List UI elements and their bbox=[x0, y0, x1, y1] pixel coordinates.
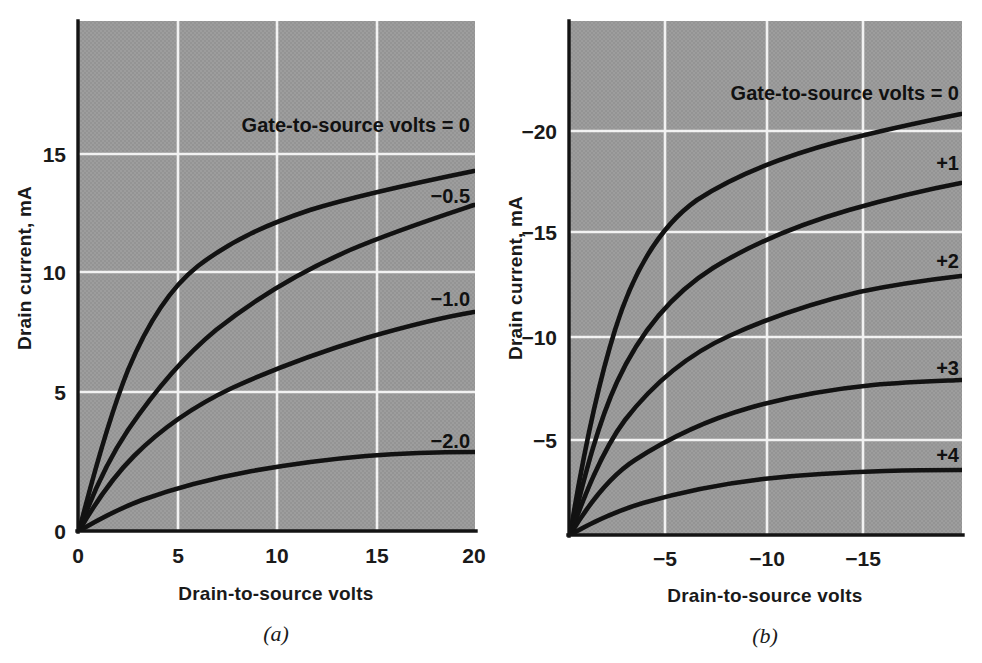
curve-label-a-vgs-0: Gate-to-source volts = 0 bbox=[242, 114, 470, 136]
y-tick-a-0: 0 bbox=[54, 520, 66, 543]
x-tick-b-minus-15: −15 bbox=[845, 547, 881, 570]
x-tick-b-minus-5: −5 bbox=[653, 547, 677, 570]
x-axis-title-a: Drain-to-source volts bbox=[178, 583, 373, 604]
curve-label-b-plus-3: +3 bbox=[936, 357, 959, 379]
x-axis-title-b: Drain-to-source volts bbox=[667, 585, 862, 606]
y-tick-a-5: 5 bbox=[54, 381, 66, 404]
figure-container: 15 10 5 0 0 5 10 15 20 Gate-to-source vo… bbox=[0, 0, 982, 663]
curve-label-a-minus-2-0: −2.0 bbox=[431, 430, 470, 452]
curve-label-b-vgs-0: Gate-to-source volts = 0 bbox=[731, 82, 959, 104]
curve-label-a-minus-1-0: −1.0 bbox=[431, 288, 470, 310]
x-tick-a-10: 10 bbox=[265, 544, 288, 567]
x-tick-a-15: 15 bbox=[365, 544, 389, 567]
y-tick-a-15: 15 bbox=[43, 143, 67, 166]
y-axis-title-b: Drain current, mA bbox=[505, 196, 526, 360]
curve-label-b-plus-1: +1 bbox=[936, 152, 959, 174]
y-tick-b-minus-20: −20 bbox=[521, 120, 557, 143]
x-tick-a-5: 5 bbox=[172, 544, 184, 567]
y-tick-b-minus-5: −5 bbox=[533, 429, 557, 452]
y-tick-b-minus-15: −15 bbox=[521, 221, 557, 244]
panel-caption-b: (b) bbox=[752, 623, 778, 648]
panel-caption-a: (a) bbox=[263, 621, 289, 646]
curve-label-b-plus-4: +4 bbox=[936, 444, 960, 466]
chart-panel-b: −20 −15 −10 −5 −5 −10 −15 Gate-to-source… bbox=[491, 0, 982, 663]
y-axis-title-a: Drain current, mA bbox=[14, 186, 35, 350]
x-tick-a-20: 20 bbox=[462, 544, 485, 567]
y-tick-a-10: 10 bbox=[43, 261, 66, 284]
x-tick-b-minus-10: −10 bbox=[749, 547, 785, 570]
y-tick-b-minus-10: −10 bbox=[521, 326, 557, 349]
curve-label-b-plus-2: +2 bbox=[936, 250, 959, 272]
chart-panel-a: 15 10 5 0 0 5 10 15 20 Gate-to-source vo… bbox=[0, 0, 491, 663]
curve-label-a-minus-0-5: −0.5 bbox=[431, 185, 470, 207]
x-tick-a-0: 0 bbox=[72, 544, 84, 567]
